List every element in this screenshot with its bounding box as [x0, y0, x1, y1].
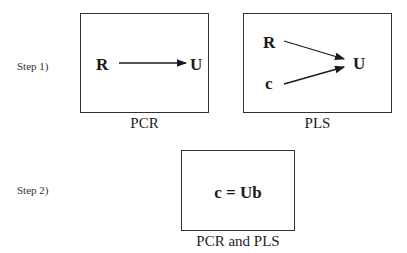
pls-arrow-c-to-u [284, 67, 344, 84]
arrows-layer [0, 0, 407, 253]
pls-arrow-r-to-u [284, 41, 344, 59]
